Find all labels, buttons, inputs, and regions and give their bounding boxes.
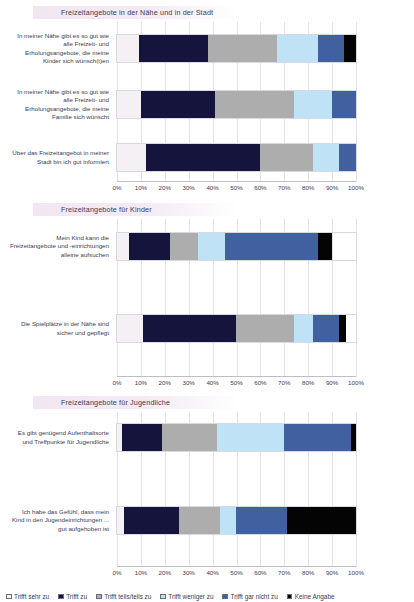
bar-segment (143, 315, 236, 342)
x-axis: 0%10%20%30%40%50%60%70%80%90%100% (117, 182, 356, 194)
x-axis-tick: 80% (302, 184, 314, 191)
bar-segment (162, 424, 217, 451)
plot-area: Mein Kind kann die Freizeitangebote und … (117, 219, 356, 377)
bar-segment (124, 507, 179, 534)
bar-segment (236, 507, 286, 534)
bar-segment (217, 424, 284, 451)
section-title: Freizeitangebote für Kinder (33, 205, 152, 214)
bar-row-label: Ich habe das Gefühl, dass mein Kind in d… (9, 508, 117, 533)
stacked-bar (117, 315, 356, 342)
x-axis: 0%10%20%30%40%50%60%70%80%90%100% (117, 377, 356, 389)
x-axis-tick: 50% (230, 569, 242, 576)
x-axis-tick: 90% (326, 184, 338, 191)
bar-segment (117, 144, 146, 171)
bar-segment (313, 315, 339, 342)
legend-item[interactable]: Trifft teils/teils zu (96, 593, 151, 600)
x-axis-tick: 20% (159, 184, 171, 191)
bar-row: In meiner Nähe gibt es so gut wie alle F… (117, 91, 356, 118)
x-axis-tick: 80% (302, 569, 314, 576)
x-axis: 0%10%20%30%40%50%60%70%80%90%100% (117, 567, 356, 579)
bar-segment (117, 91, 141, 118)
bar-row-label: Mein Kind kann die Freizeitangebote und … (9, 234, 117, 259)
legend-item[interactable]: Trifft weniger zu (160, 593, 213, 600)
legend-item[interactable]: Trifft zu (58, 593, 87, 600)
x-axis-tick: 40% (206, 184, 218, 191)
bar-segment (339, 144, 356, 171)
bar-segment (284, 424, 351, 451)
stacked-bar (117, 233, 356, 260)
x-axis-tick: 50% (230, 184, 242, 191)
x-axis-tick: 100% (348, 184, 364, 191)
chart-page: Freizeitangebote in der Nähe und in der … (0, 0, 414, 602)
x-axis-tick: 30% (182, 184, 194, 191)
bar-row: Mein Kind kann die Freizeitangebote und … (117, 233, 356, 260)
x-axis-tick: 10% (135, 184, 147, 191)
section-title-band: Freizeitangebote für Jugendliche (33, 396, 238, 409)
x-axis-tick: 30% (182, 569, 194, 576)
legend-label: Trifft weniger zu (168, 593, 213, 600)
legend-swatch-icon (160, 594, 166, 600)
bar-segment (117, 507, 124, 534)
stacked-bar (117, 91, 356, 118)
bar-segment (332, 91, 356, 118)
chart-section: Freizeitangebote für JugendlicheEs gibt … (0, 396, 414, 579)
chart-section: Freizeitangebote in der Nähe und in der … (0, 6, 414, 194)
bar-segment (122, 424, 163, 451)
x-axis-tick: 20% (159, 569, 171, 576)
bar-segment (277, 35, 318, 62)
x-axis-tick: 80% (302, 379, 314, 386)
bar-segment (179, 507, 220, 534)
bar-segment (220, 507, 237, 534)
bar-segment (139, 35, 208, 62)
legend-label: Trifft sehr zu (14, 593, 49, 600)
x-axis-tick: 70% (278, 569, 290, 576)
stacked-bar (117, 35, 356, 62)
legend-label: Keine Angabe (295, 593, 335, 600)
stacked-bar (117, 144, 356, 171)
x-axis-tick: 0% (113, 379, 122, 386)
x-axis-tick: 100% (348, 569, 364, 576)
bar-segment (287, 507, 356, 534)
section-title: Freizeitangebote für Jugendliche (33, 398, 170, 407)
bar-segment (146, 144, 261, 171)
legend-label: Trifft gar nicht zu (230, 593, 277, 600)
plot-area: In meiner Nähe gibt es so gut wie alle F… (117, 22, 356, 182)
stacked-bar (117, 424, 356, 451)
bar-segment (260, 144, 313, 171)
bar-row-label: Es gibt genügend Aufenthaltsorte und Tre… (9, 429, 117, 446)
bar-segment (294, 91, 332, 118)
bar-segment (129, 233, 170, 260)
bar-row: Es gibt genügend Aufenthaltsorte und Tre… (117, 424, 356, 451)
x-axis-tick: 60% (254, 379, 266, 386)
bar-segment (351, 424, 356, 451)
bar-row-label: In meiner Nähe gibt es so gut wie alle F… (9, 32, 117, 65)
x-axis-tick: 20% (159, 379, 171, 386)
x-axis-tick: 100% (348, 379, 364, 386)
x-axis-tick: 70% (278, 379, 290, 386)
bar-segment (117, 315, 143, 342)
x-axis-tick: 60% (254, 184, 266, 191)
legend-label: Trifft zu (66, 593, 87, 600)
legend-item[interactable]: Trifft sehr zu (6, 593, 49, 600)
bar-segment (313, 144, 339, 171)
legend-item[interactable]: Trifft gar nicht zu (222, 593, 277, 600)
bar-row-label: In meiner Nähe gibt es so gut wie alle F… (9, 88, 117, 121)
bar-row: In meiner Nähe gibt es so gut wie alle F… (117, 35, 356, 62)
bar-row: Über das Freizeitangebot in meiner Stadt… (117, 144, 356, 171)
bar-segment (344, 35, 356, 62)
x-axis-tick: 90% (326, 379, 338, 386)
bar-row: Ich habe das Gefühl, dass mein Kind in d… (117, 507, 356, 534)
legend-item[interactable]: Keine Angabe (287, 593, 335, 600)
bar-segment (208, 35, 277, 62)
x-axis-tick: 30% (182, 379, 194, 386)
bar-segment (318, 35, 344, 62)
bar-row: Die Spielplätze in der Nähe sind sicher … (117, 315, 356, 342)
bar-segment (318, 233, 332, 260)
section-title: Freizeitangebote in der Nähe und in der … (33, 8, 213, 17)
x-axis-tick: 60% (254, 569, 266, 576)
x-axis-tick: 0% (113, 569, 122, 576)
bar-segment (117, 35, 139, 62)
x-axis-tick: 70% (278, 184, 290, 191)
bar-segment (215, 91, 294, 118)
legend-swatch-icon (222, 594, 228, 600)
